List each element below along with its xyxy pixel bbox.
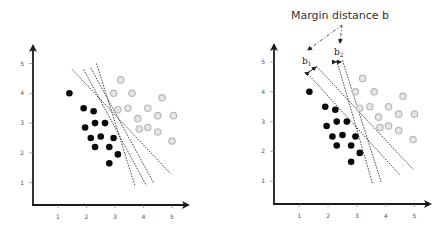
class-b-point	[357, 105, 363, 111]
x-tick-label: 5	[413, 212, 417, 219]
class-a-point	[92, 120, 99, 127]
class-a-point	[82, 124, 89, 131]
class-b-point	[411, 111, 417, 117]
class-a-point	[106, 144, 113, 151]
class-b-point	[367, 104, 373, 110]
figure-title: Margin distance b	[291, 9, 389, 22]
class-a-point	[356, 150, 363, 157]
class-a-point	[348, 159, 355, 166]
y-tick-label: 2	[261, 147, 265, 154]
x-tick-label: 5	[170, 213, 174, 220]
separator-line	[72, 69, 170, 173]
class-b-point	[385, 104, 391, 110]
x-tick-label: 2	[85, 213, 89, 220]
class-b-point	[170, 112, 176, 118]
left-axis-ticks: 1234512345	[20, 60, 174, 221]
label-b1: b1	[302, 56, 312, 67]
right-axis-ticks: 1234512345	[261, 58, 416, 219]
class-a-point	[332, 106, 339, 113]
y-tick-label: 5	[20, 60, 24, 67]
y-tick-label: 3	[261, 118, 265, 125]
separator-line	[91, 68, 154, 183]
class-b-point	[115, 106, 121, 112]
class-a-point	[106, 160, 113, 167]
margin-arrow-b1	[309, 67, 316, 72]
class-b-point	[385, 123, 391, 129]
class-a-point	[115, 151, 122, 158]
class-a-point	[322, 103, 329, 110]
class-a-point	[110, 135, 117, 142]
separator-line	[337, 61, 373, 185]
class-a-point	[344, 118, 351, 125]
class-a-point	[323, 123, 330, 130]
x-tick-label: 2	[326, 212, 330, 219]
class-a-point	[80, 105, 87, 112]
class-b-point	[395, 111, 401, 117]
y-tick-label: 4	[261, 88, 265, 95]
class-b-point	[359, 75, 365, 81]
class-a-point	[333, 118, 340, 125]
x-tick-label: 1	[56, 213, 60, 220]
x-tick-label: 4	[384, 212, 388, 219]
class-a-point	[90, 108, 97, 115]
class-b-point	[375, 114, 381, 120]
x-tick-label: 4	[142, 213, 146, 220]
class-a-point	[97, 133, 104, 140]
y-tick-label: 5	[261, 58, 265, 65]
class-b-point	[159, 95, 165, 101]
class-b-point	[136, 126, 142, 132]
class-b-point	[395, 127, 401, 133]
class-a-point	[102, 120, 109, 127]
class-b-point	[145, 105, 151, 111]
class-b-point	[155, 129, 161, 135]
class-a-point	[329, 133, 336, 140]
left-data-points	[66, 77, 177, 167]
class-b-point	[371, 89, 377, 95]
right-plot: Margin distance b 1234512345 b1 b2	[261, 9, 430, 219]
y-tick-label: 1	[261, 177, 265, 184]
left-plot: 1234512345	[20, 46, 188, 220]
y-tick-label: 1	[20, 179, 24, 186]
class-a-point	[348, 142, 355, 149]
x-tick-label: 1	[297, 212, 301, 219]
class-b-point	[129, 90, 135, 96]
class-b-point	[118, 77, 124, 83]
class-b-point	[352, 89, 358, 95]
class-a-point	[92, 144, 99, 151]
class-a-point	[339, 132, 346, 139]
class-a-point	[333, 142, 340, 149]
class-a-point	[66, 90, 73, 97]
pointer-arrow-b2	[340, 25, 342, 43]
svm-margin-figure: 1234512345 Margin distance b 1234512345 …	[0, 0, 445, 235]
class-b-point	[125, 105, 131, 111]
class-a-point	[87, 135, 94, 142]
class-b-point	[410, 136, 416, 142]
y-tick-label: 3	[20, 119, 24, 126]
class-b-point	[145, 124, 151, 130]
x-tick-label: 3	[113, 213, 117, 220]
class-a-point	[352, 133, 359, 140]
y-tick-label: 2	[20, 149, 24, 156]
class-a-point	[306, 89, 313, 96]
class-b-point	[155, 112, 161, 118]
class-b-point	[135, 115, 141, 121]
class-b-point	[110, 90, 116, 96]
y-tick-label: 4	[20, 89, 24, 96]
x-tick-label: 3	[355, 212, 359, 219]
class-b-point	[169, 138, 175, 144]
class-b-point	[400, 93, 406, 99]
class-b-point	[377, 124, 383, 130]
label-b2: b2	[334, 47, 344, 58]
